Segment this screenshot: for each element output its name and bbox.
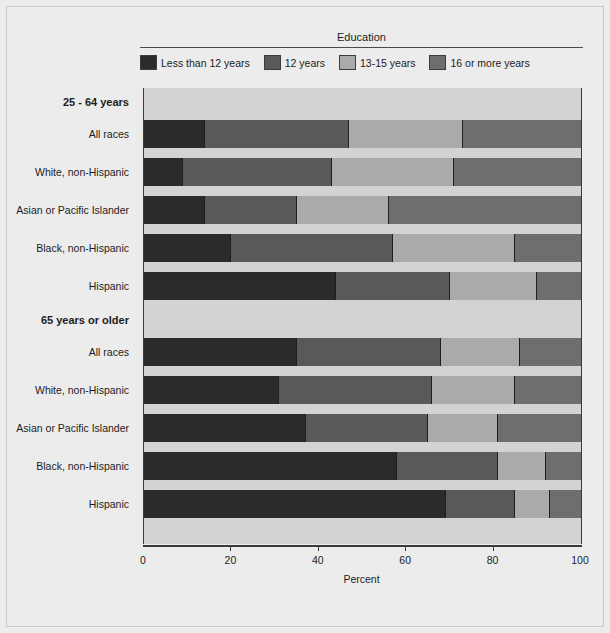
x-axis-tick-label: 20 (225, 554, 237, 566)
x-axis-tick-label: 60 (399, 554, 411, 566)
legend-item-label: 16 or more years (450, 57, 529, 69)
bar-segment[interactable] (183, 158, 332, 186)
bar-segment[interactable] (279, 376, 432, 404)
x-axis-tick (230, 545, 231, 551)
plot-area (143, 88, 582, 544)
x-axis-tick-label: 0 (140, 554, 146, 566)
bar-segment[interactable] (205, 196, 297, 224)
stacked-bar[interactable] (144, 338, 581, 366)
bar-segment[interactable] (144, 414, 306, 442)
stacked-bar[interactable] (144, 234, 581, 262)
bar-segment[interactable] (546, 452, 581, 480)
bar-segment[interactable] (498, 452, 546, 480)
bar-segment[interactable] (144, 376, 279, 404)
y-axis-tick-label: White, non-Hispanic (35, 166, 129, 178)
bar-segment[interactable] (454, 158, 581, 186)
bar-row[interactable] (144, 268, 581, 306)
group-header-row (144, 88, 581, 116)
legend-item-label: 12 years (285, 57, 325, 69)
bar-segment[interactable] (520, 338, 581, 366)
bar-row[interactable] (144, 192, 581, 230)
bar-segment[interactable] (515, 376, 581, 404)
y-axis-tick-label: All races (89, 346, 129, 358)
y-axis-tick-label: Black, non-Hispanic (36, 242, 129, 254)
legend-items: Less than 12 years12 years13-15 years16 … (140, 55, 583, 70)
y-axis-tick-label: Hispanic (89, 498, 129, 510)
bar-segment[interactable] (463, 120, 581, 148)
bar-segment[interactable] (393, 234, 515, 262)
bar-row[interactable] (144, 486, 581, 524)
figure: Education Less than 12 years12 years13-1… (0, 0, 610, 633)
bar-segment[interactable] (144, 158, 183, 186)
bar-row[interactable] (144, 334, 581, 372)
y-axis-labels: 25 - 64 yearsAll racesWhite, non-Hispani… (0, 88, 137, 544)
bar-segment[interactable] (446, 490, 516, 518)
bar-segment[interactable] (144, 196, 205, 224)
y-axis-tick-label: Asian or Pacific Islander (16, 204, 129, 216)
legend-item-label: Less than 12 years (161, 57, 250, 69)
group-header-row (144, 306, 581, 334)
bar-segment[interactable] (349, 120, 463, 148)
y-axis-tick-label: All races (89, 128, 129, 140)
y-axis-tick-label: Hispanic (89, 280, 129, 292)
stacked-bar[interactable] (144, 158, 581, 186)
stacked-bar[interactable] (144, 376, 581, 404)
bar-segment[interactable] (515, 490, 550, 518)
bar-segment[interactable] (389, 196, 581, 224)
bar-row[interactable] (144, 230, 581, 268)
legend-item-label: 13-15 years (360, 57, 415, 69)
bar-segment[interactable] (515, 234, 581, 262)
bar-segment[interactable] (297, 196, 389, 224)
stacked-bar[interactable] (144, 120, 581, 148)
bar-segment[interactable] (428, 414, 498, 442)
bar-segment[interactable] (144, 452, 397, 480)
bar-row[interactable] (144, 448, 581, 486)
bar-segment[interactable] (336, 272, 450, 300)
bar-segment[interactable] (441, 338, 520, 366)
legend-item[interactable]: Less than 12 years (140, 55, 250, 70)
legend-item[interactable]: 13-15 years (339, 55, 415, 70)
x-axis-tick (493, 545, 494, 551)
bar-segment[interactable] (297, 338, 441, 366)
bar-row[interactable] (144, 116, 581, 154)
bar-segment[interactable] (397, 452, 498, 480)
bar-segment[interactable] (537, 272, 581, 300)
x-axis-tick-label: 40 (312, 554, 324, 566)
legend-swatch-icon (429, 55, 446, 70)
stacked-bar[interactable] (144, 196, 581, 224)
bar-segment[interactable] (144, 338, 297, 366)
bar-segment[interactable] (205, 120, 349, 148)
bar-segment[interactable] (306, 414, 428, 442)
legend-swatch-icon (339, 55, 356, 70)
group-header-label: 25 - 64 years (63, 96, 129, 108)
legend-item[interactable]: 16 or more years (429, 55, 529, 70)
bar-segment[interactable] (144, 490, 446, 518)
stacked-bar[interactable] (144, 272, 581, 300)
x-axis-tick (405, 545, 406, 551)
legend-divider (140, 47, 583, 48)
bar-segment[interactable] (550, 490, 581, 518)
bar-row[interactable] (144, 410, 581, 448)
stacked-bar[interactable] (144, 490, 581, 518)
bar-row[interactable] (144, 372, 581, 410)
x-axis-tick (318, 545, 319, 551)
bar-segment[interactable] (498, 414, 581, 442)
bar-segment[interactable] (432, 376, 515, 404)
bar-segment[interactable] (231, 234, 393, 262)
stacked-bar[interactable] (144, 414, 581, 442)
group-header-label: 65 years or older (41, 314, 129, 326)
legend-title: Education (140, 30, 583, 44)
x-axis-line (143, 545, 582, 547)
y-axis-tick-label: Black, non-Hispanic (36, 460, 129, 472)
legend-swatch-icon (264, 55, 281, 70)
bar-segment[interactable] (144, 120, 205, 148)
bar-segment[interactable] (450, 272, 537, 300)
bar-segment[interactable] (332, 158, 454, 186)
bar-segment[interactable] (144, 234, 231, 262)
legend-item[interactable]: 12 years (264, 55, 325, 70)
x-axis-tick-label: 80 (487, 554, 499, 566)
bar-segment[interactable] (144, 272, 336, 300)
legend: Education Less than 12 years12 years13-1… (140, 30, 583, 70)
stacked-bar[interactable] (144, 452, 581, 480)
bar-row[interactable] (144, 154, 581, 192)
